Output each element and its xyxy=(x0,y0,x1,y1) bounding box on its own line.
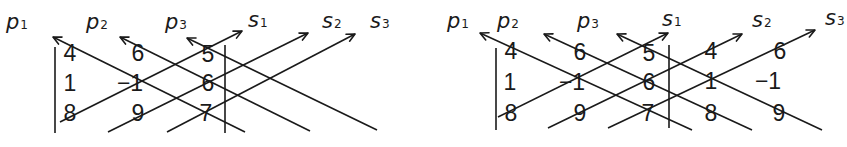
matrix-entry: 6 xyxy=(132,40,145,66)
product-line-s3 xyxy=(167,34,355,132)
matrix-entry: 1 xyxy=(504,69,517,95)
matrix-entry: 6 xyxy=(202,70,215,96)
matrix-entry: 1 xyxy=(64,70,77,96)
matrix-entry: 4 xyxy=(505,38,518,64)
matrix-entry: 6 xyxy=(574,39,587,65)
product-label-p1: p1 xyxy=(446,9,469,33)
matrix-entry: 8 xyxy=(705,100,718,126)
sarrus-diagram: 4651−16897p1p2p3s1s2s3 465461−161−189789… xyxy=(0,0,847,147)
left-panel: 4651−16897p1p2p3s1s2s3 xyxy=(5,8,390,133)
matrix-entry: −1 xyxy=(755,68,781,94)
product-label-s1: s1 xyxy=(248,8,268,32)
matrix-entry: −1 xyxy=(559,69,585,95)
product-label-s2: s2 xyxy=(752,8,772,32)
matrix-entry: 4 xyxy=(705,38,718,64)
product-label-s2: s2 xyxy=(322,9,342,33)
matrix-entry: 1 xyxy=(705,68,718,94)
matrix-entry: 6 xyxy=(643,69,656,95)
product-label-p3: p3 xyxy=(576,9,599,33)
matrix-entry: 8 xyxy=(64,100,77,126)
product-label-p3: p3 xyxy=(164,10,187,34)
product-label-p2: p2 xyxy=(85,10,108,34)
diagram-canvas: 4651−16897p1p2p3s1s2s3 465461−161−189789… xyxy=(0,0,847,147)
matrix-entry: 5 xyxy=(202,41,215,67)
matrix-entry: 6 xyxy=(774,38,787,64)
matrix-entry: 9 xyxy=(132,100,145,126)
matrix-entry: 7 xyxy=(200,100,213,126)
product-label-p1: p1 xyxy=(5,10,28,34)
product-label-s3: s3 xyxy=(370,9,390,33)
matrix-entry: 7 xyxy=(642,100,655,126)
product-line-s1 xyxy=(60,31,242,122)
matrix-entry: 4 xyxy=(64,40,77,66)
matrix-entry: 9 xyxy=(574,100,587,126)
diagonal-s3 xyxy=(167,34,355,132)
matrix-entry: 5 xyxy=(643,40,656,66)
diagonal-s1 xyxy=(60,31,242,122)
product-label-s1: s1 xyxy=(662,7,682,31)
right-panel: 465461−161−189789p1p2p3s1s2s3 xyxy=(446,6,845,130)
matrix-entry: −1 xyxy=(117,70,143,96)
matrix-entry: 8 xyxy=(505,100,518,126)
product-label-p2: p2 xyxy=(496,9,519,33)
matrix-entry: 9 xyxy=(773,100,786,126)
product-label-s3: s3 xyxy=(825,6,845,30)
